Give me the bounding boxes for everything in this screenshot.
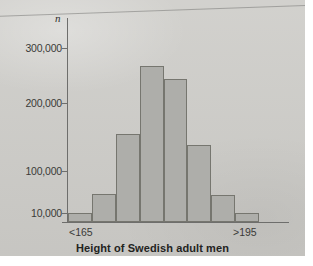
histogram-bar	[92, 194, 116, 222]
histogram-bar	[68, 213, 92, 222]
y-tick-mark	[62, 171, 68, 172]
y-tick-label-wrap: 300,000	[0, 42, 62, 54]
x-axis-line	[62, 222, 289, 223]
y-tick-label: 200,000	[10, 97, 62, 109]
histogram-bar	[211, 195, 235, 222]
histogram-bar	[116, 134, 140, 222]
y-tick-mark	[62, 103, 68, 104]
x-axis-title: Height of Swedish adult men	[0, 242, 305, 254]
histogram-bar	[164, 79, 188, 222]
histogram-bar	[235, 213, 259, 222]
histogram-bar	[140, 66, 164, 222]
scanned-page: n 300,000200,000100,00010,000 <165 >195 …	[0, 0, 313, 266]
y-axis-title: n	[55, 12, 61, 24]
y-tick-mark	[62, 48, 68, 49]
y-tick-label: 10,000	[10, 207, 62, 219]
histogram-plot-area: n 300,000200,000100,00010,000 <165 >195 …	[0, 0, 305, 256]
x-axis-label-low: <165	[69, 226, 93, 238]
y-tick-label: 100,000	[10, 165, 62, 177]
figure-panel: n 300,000200,000100,00010,000 <165 >195 …	[0, 0, 305, 256]
y-tick-label-wrap: 10,000	[0, 207, 62, 219]
x-axis-label-high: >195	[233, 226, 257, 238]
histogram-bar	[187, 145, 211, 222]
y-tick-label-wrap: 100,000	[0, 165, 62, 177]
y-tick-label-wrap: 200,000	[0, 97, 62, 109]
y-tick-label: 300,000	[10, 42, 62, 54]
